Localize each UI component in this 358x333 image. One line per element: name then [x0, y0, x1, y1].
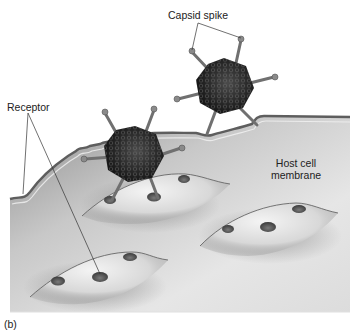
receptor: [51, 277, 65, 286]
receptor: [260, 222, 276, 232]
receptor: [178, 175, 190, 183]
receptor: [292, 205, 306, 213]
host-cell-membrane-label: Host cell membrane: [266, 157, 326, 181]
receptor-label: Receptor: [7, 101, 50, 113]
capsid-spike-leader-lines: [192, 23, 241, 50]
host-cell-membrane-label-line2: membrane: [266, 169, 326, 181]
receptor: [123, 253, 137, 261]
host-cell-membrane-label-line1: Host cell: [266, 157, 326, 169]
capsid-spike-label: Capsid spike: [168, 9, 228, 21]
panel-label: (b): [4, 318, 17, 330]
receptor: [222, 225, 234, 233]
